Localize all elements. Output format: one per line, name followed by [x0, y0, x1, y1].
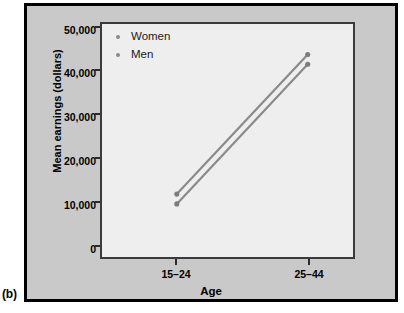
y-tick-label: 50,000 — [64, 24, 96, 36]
x-tick-label: 15–24 — [161, 268, 190, 280]
legend-item-men: Men — [116, 47, 170, 62]
x-axis-title: Age — [27, 285, 395, 297]
y-tick-label: 10,000 — [64, 199, 96, 211]
panel-letter: (b) — [2, 287, 17, 301]
x-tick-label: 25–44 — [294, 268, 323, 280]
plot-area: Women Men — [100, 22, 355, 259]
y-tick-label: 30,000 — [64, 111, 96, 123]
data-point-women-15-24 — [174, 201, 179, 206]
data-point-men-25-44 — [305, 52, 310, 57]
data-point-women-25-44 — [305, 62, 310, 67]
legend-item-women: Women — [116, 29, 170, 44]
legend-label-women: Women — [131, 31, 170, 43]
y-tick-label: 40,000 — [64, 67, 96, 79]
data-point-men-15-24 — [174, 192, 179, 197]
x-tick-mark — [308, 259, 310, 265]
legend-label-men: Men — [131, 49, 153, 61]
series-line-women — [177, 64, 308, 204]
y-axis-tick-labels: 50,000 40,000 30,000 20,000 10,000 0 — [41, 9, 96, 308]
figure-box: Mean earnings (dollars) 50,000 40,000 30… — [24, 3, 398, 302]
legend-marker-icon — [116, 35, 120, 39]
series-line-men — [177, 54, 308, 194]
chart-legend: Women Men — [116, 29, 170, 62]
x-tick-mark — [175, 259, 177, 265]
y-tick-label: 20,000 — [64, 155, 96, 167]
legend-marker-icon — [116, 53, 120, 57]
